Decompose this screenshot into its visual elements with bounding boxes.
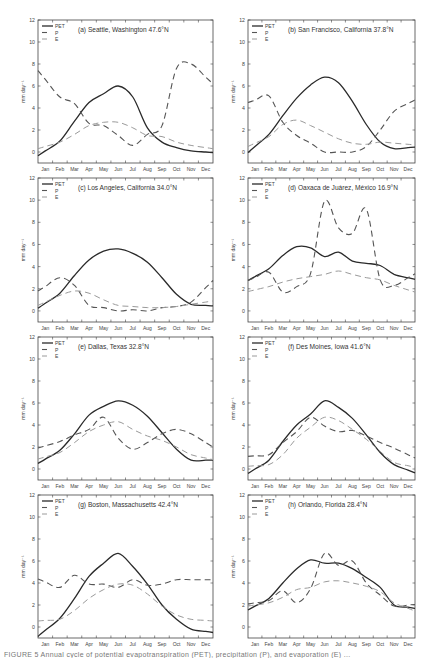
x-tick-label: May bbox=[99, 483, 109, 489]
x-tick-label: Jul bbox=[130, 483, 136, 489]
x-tick-label: Oct bbox=[376, 166, 384, 172]
y-tick-label: 8 bbox=[242, 378, 245, 384]
y-tick-label: 12 bbox=[29, 17, 35, 23]
x-tick-label: Jul bbox=[335, 166, 341, 172]
y-axis-label: mm day⁻¹ bbox=[230, 555, 236, 578]
y-tick-label: 2 bbox=[32, 444, 35, 450]
x-tick-label: Jan bbox=[41, 641, 49, 647]
x-tick-label: Oct bbox=[173, 483, 181, 489]
x-tick-label: Aug bbox=[143, 483, 152, 489]
series-line-pet bbox=[38, 86, 213, 156]
x-tick-label: Sep bbox=[158, 166, 167, 172]
legend-label-pet: PET bbox=[265, 23, 275, 29]
legend-label-e: E bbox=[55, 511, 59, 517]
x-tick-label: May bbox=[99, 166, 109, 172]
x-tick-label: Mar bbox=[278, 325, 287, 331]
legend-label-pet: PET bbox=[265, 498, 275, 504]
y-tick-label: 8 bbox=[242, 536, 245, 542]
y-axis-label: mm day⁻¹ bbox=[230, 238, 236, 261]
x-tick-label: Nov bbox=[390, 483, 399, 489]
x-tick-label: May bbox=[99, 325, 109, 331]
series-line-p bbox=[248, 553, 415, 607]
x-tick-label: Nov bbox=[390, 166, 399, 172]
y-tick-label: 6 bbox=[32, 241, 35, 247]
y-tick-label: 12 bbox=[29, 492, 35, 498]
y-axis-label: mm day⁻¹ bbox=[20, 238, 26, 261]
y-tick-label: 8 bbox=[32, 219, 35, 225]
x-tick-label: Oct bbox=[173, 641, 181, 647]
x-tick-label: Sep bbox=[158, 325, 167, 331]
series-line-p bbox=[38, 62, 213, 146]
y-tick-label: 2 bbox=[32, 286, 35, 292]
y-tick-label: 0 bbox=[242, 149, 245, 155]
legend-label-p: P bbox=[55, 30, 59, 36]
x-tick-label: Apr bbox=[85, 641, 93, 647]
x-tick-label: Apr bbox=[85, 325, 93, 331]
x-tick-label: Nov bbox=[187, 325, 196, 331]
figure-canvas: 024681012mm day⁻¹JanFebMarAprMayJunJulAu… bbox=[0, 0, 437, 662]
plot-frame bbox=[248, 337, 415, 480]
x-tick-label: Jan bbox=[41, 483, 49, 489]
legend-label-p: P bbox=[55, 188, 59, 194]
y-tick-label: 10 bbox=[29, 39, 35, 45]
x-tick-label: Dec bbox=[201, 166, 210, 172]
series-line-p bbox=[248, 417, 415, 458]
legend-label-p: P bbox=[265, 188, 269, 194]
series-line-p bbox=[248, 95, 415, 153]
legend-label-pet: PET bbox=[55, 23, 65, 29]
x-tick-label: Jun bbox=[321, 483, 329, 489]
chart-panel-f: 024681012mm day⁻¹JanFebMarAprMayJunJulAu… bbox=[230, 334, 415, 489]
y-tick-label: 8 bbox=[242, 61, 245, 67]
x-tick-label: May bbox=[99, 641, 109, 647]
chart-panel-h: 024681012mm day⁻¹JanFebMarAprMayJunJulAu… bbox=[230, 492, 415, 647]
y-tick-label: 6 bbox=[242, 400, 245, 406]
legend-label-e: E bbox=[55, 194, 59, 200]
x-tick-label: Nov bbox=[187, 483, 196, 489]
legend-label-e: E bbox=[265, 36, 269, 42]
plot-frame bbox=[248, 20, 415, 163]
y-tick-label: 2 bbox=[242, 602, 245, 608]
y-tick-label: 4 bbox=[242, 264, 245, 270]
y-tick-label: 8 bbox=[242, 219, 245, 225]
panel-title: (e) Dallas, Texas 32.8°N bbox=[78, 343, 149, 351]
panel-title: (f) Des Moines, Iowa 41.6°N bbox=[288, 343, 371, 351]
x-tick-label: Dec bbox=[201, 325, 210, 331]
x-tick-label: Dec bbox=[404, 166, 413, 172]
series-line-p bbox=[38, 575, 213, 587]
series-line-e bbox=[248, 271, 415, 292]
series-line-e bbox=[38, 291, 213, 308]
x-tick-label: Apr bbox=[293, 483, 301, 489]
x-tick-label: Mar bbox=[278, 483, 287, 489]
x-tick-label: Jan bbox=[251, 166, 259, 172]
x-tick-label: Feb bbox=[265, 166, 274, 172]
x-tick-label: Feb bbox=[265, 483, 274, 489]
x-tick-label: Mar bbox=[70, 325, 79, 331]
series-line-p bbox=[248, 200, 415, 293]
y-tick-label: 4 bbox=[32, 105, 35, 111]
legend-label-e: E bbox=[265, 353, 269, 359]
y-tick-label: 12 bbox=[239, 17, 245, 23]
legend-label-p: P bbox=[55, 347, 59, 353]
x-tick-label: Feb bbox=[56, 325, 65, 331]
x-tick-label: May bbox=[306, 325, 316, 331]
y-tick-label: 0 bbox=[242, 624, 245, 630]
x-tick-label: Aug bbox=[348, 166, 357, 172]
x-tick-label: Aug bbox=[143, 325, 152, 331]
y-tick-label: 8 bbox=[32, 61, 35, 67]
y-tick-label: 2 bbox=[32, 602, 35, 608]
chart-panel-e: 024681012mm day⁻¹JanFebMarAprMayJunJulAu… bbox=[20, 334, 213, 489]
x-tick-label: Oct bbox=[376, 325, 384, 331]
x-tick-label: Jul bbox=[335, 641, 341, 647]
x-tick-label: Jan bbox=[251, 483, 259, 489]
legend-label-p: P bbox=[265, 505, 269, 511]
y-tick-label: 2 bbox=[242, 444, 245, 450]
x-tick-label: Oct bbox=[173, 166, 181, 172]
x-tick-label: Jun bbox=[114, 641, 122, 647]
y-axis-label: mm day⁻¹ bbox=[20, 555, 26, 578]
series-line-pet bbox=[248, 77, 415, 152]
y-tick-label: 10 bbox=[29, 356, 35, 362]
x-tick-label: Feb bbox=[56, 483, 65, 489]
y-tick-label: 6 bbox=[32, 83, 35, 89]
legend-label-e: E bbox=[55, 36, 59, 42]
x-tick-label: Sep bbox=[362, 483, 371, 489]
